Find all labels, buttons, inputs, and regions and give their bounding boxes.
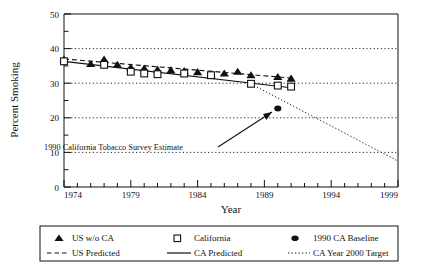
- legend-label-us-wo-ca: US w/o CA: [72, 233, 115, 243]
- x-tick-label-1984: 1984: [189, 190, 208, 200]
- smoking-trend-chart: 50 40 30 20 10 0 Percent Smoking: [0, 0, 424, 266]
- x-tick-label-1974: 1974: [64, 190, 83, 200]
- legend-label-ca-year-2000-target: CA Year 2000 Target: [313, 248, 389, 258]
- legend-marker-open-square-icon: [174, 235, 181, 242]
- y-tick-label-0: 0: [55, 183, 60, 193]
- x-axis-label: Year: [221, 203, 242, 215]
- series-points-1990-ca-baseline: [274, 106, 281, 112]
- legend-label-california: California: [194, 233, 231, 243]
- legend-label-1990-ca-baseline: 1990 CA Baseline: [313, 233, 379, 243]
- legend-label-us-predicted: US Predicted: [72, 248, 120, 258]
- y-tick-label-30: 30: [50, 79, 60, 89]
- annotation-label: 1990 California Tobacco Survey Estimate: [44, 143, 183, 152]
- x-tick-label-1999: 1999: [380, 190, 399, 200]
- chart-svg: 50 40 30 20 10 0 Percent Smoking: [0, 0, 424, 266]
- y-axis-label: Percent Smoking: [8, 62, 20, 138]
- y-tick-label-20: 20: [50, 113, 60, 123]
- y-tick-label-50: 50: [50, 10, 60, 20]
- x-tick-label-1979: 1979: [122, 190, 141, 200]
- legend-label-ca-predicted: CA Predicted: [194, 248, 243, 258]
- y-tick-label-40: 40: [50, 44, 60, 54]
- x-tick-label-1989: 1989: [255, 190, 274, 200]
- legend: US w/o CA California 1990 CA Baseline US…: [40, 226, 398, 261]
- legend-marker-filled-circle-icon: [291, 236, 298, 242]
- x-tick-label-1994: 1994: [322, 190, 341, 200]
